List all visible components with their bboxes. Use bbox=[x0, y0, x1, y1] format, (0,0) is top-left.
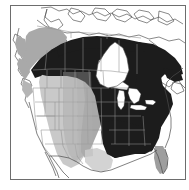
north-america-range-map bbox=[11, 6, 185, 179]
map-frame: North American distribution range North … bbox=[10, 5, 186, 180]
range-map-figure: North American distribution range North … bbox=[0, 0, 189, 190]
